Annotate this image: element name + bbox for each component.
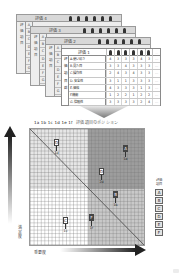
score-cell-more: … [152, 63, 160, 69]
person-icon [109, 16, 112, 21]
up-arrow-icon [4, 126, 16, 226]
person-icon [83, 28, 86, 33]
marker-letter: A [123, 145, 128, 152]
matrix-title: 1a 1b 1c 1d 1e 1f 評価項目のポジション [34, 119, 118, 125]
marker-letter: F [89, 214, 94, 221]
score-cell: 3 [114, 85, 122, 91]
score-cell: 2 [106, 70, 114, 76]
person-icon [132, 50, 135, 55]
score-cell: 1 [137, 85, 145, 91]
table-row: E.価格433313… [69, 85, 160, 92]
score-cell: 3 [121, 70, 129, 76]
score-cell: 4 [121, 63, 129, 69]
person-icon [117, 50, 120, 55]
column-header [145, 49, 153, 56]
sheet-header: 評価 3 [31, 27, 135, 34]
table-row: F.機能122122… [69, 92, 160, 99]
marker-code: 1d [54, 151, 58, 155]
x-axis-label: 重要度 [34, 249, 46, 255]
person-icon [124, 50, 127, 55]
sheet-side-label: 評価項目 [17, 22, 26, 73]
score-cell: 3 [129, 99, 137, 105]
score-cell: 3 [114, 99, 122, 105]
sheet-header: 評価 1 … [62, 49, 160, 56]
score-cell: 4 [129, 70, 137, 76]
person-icon [91, 28, 94, 33]
score-cell: 3 [114, 63, 122, 69]
sheet-title: 評価 2 [64, 38, 76, 45]
score-cell-more: … [152, 56, 160, 62]
down-arrow-icon [80, 106, 128, 118]
column-header [121, 49, 129, 56]
score-cell: 3 [137, 78, 145, 84]
person-icon [115, 28, 118, 33]
score-cell: 4 [106, 56, 114, 62]
position-marker: A1a [123, 145, 128, 161]
sheet-side-label: 評価項目群 [62, 56, 69, 105]
score-cell: 2 [137, 92, 145, 98]
score-cell: 3 [106, 63, 114, 69]
person-icon [114, 39, 117, 44]
y-axis-label: 満足度 [18, 226, 24, 240]
score-cell: 4 [114, 70, 122, 76]
row-label: C.操作性 [69, 70, 106, 76]
column-header [114, 49, 122, 56]
row-label: B.見た目 [69, 63, 106, 69]
person-icons [98, 39, 141, 44]
table-row: D.安全性311333… [69, 78, 160, 85]
score-cell: 3 [145, 56, 153, 62]
row-label: E.価格 [69, 85, 106, 91]
matrix-title-text: 評価項目のポジション [76, 120, 118, 125]
side-char: 目 [31, 52, 39, 58]
score-cell: 4 [137, 56, 145, 62]
score-cell-more: … [152, 70, 160, 76]
score-cell: 3 [137, 70, 145, 76]
page-marker [173, 269, 179, 273]
sheet-header: 評価 4 [17, 15, 121, 22]
right-arrow-icon [60, 244, 146, 256]
person-icon [130, 39, 133, 44]
position-marker: F1f [89, 214, 94, 230]
legend-item: F [155, 229, 163, 236]
position-marker: D2d [99, 168, 104, 184]
person-icon [109, 50, 112, 55]
side-char: 目 [62, 78, 68, 85]
score-cell: 4 [106, 85, 114, 91]
person-icon [123, 28, 126, 33]
person-icon [107, 28, 110, 33]
row-label: F.機能 [69, 92, 106, 98]
marker-letter: D [99, 168, 104, 175]
side-char: 価 [62, 63, 68, 70]
side-char: 目 [46, 63, 54, 69]
person-icon [99, 28, 102, 33]
legend-item: C [155, 205, 163, 212]
person-icon [69, 16, 72, 21]
legend-item: E [155, 221, 163, 228]
score-cell: 3 [145, 70, 153, 76]
row-label: A.使い易さ [69, 56, 106, 62]
sheet-body: 評価項目群 A.使い易さ433343…B.見た目334333…C.操作性2434… [62, 56, 160, 105]
evaluation-sheet-1: 評価 1 … 評価項目群 A.使い易さ433343…B.見た目334333…C.… [61, 48, 161, 106]
sheet-side-label: 評価項目 [31, 34, 40, 85]
score-cell: 3 [145, 78, 153, 84]
legend: 評価項目 ABCDEF [148, 178, 170, 237]
score-cell: 2 [121, 92, 129, 98]
side-char: 評 [62, 56, 68, 63]
legend-caption: 評価項目 [156, 178, 162, 186]
position-marker: D1d [54, 139, 59, 155]
column-header [137, 49, 145, 56]
score-cell: 3 [129, 63, 137, 69]
score-cell: 1 [114, 78, 122, 84]
priority-matrix: D1dA1aD2dB1bC1cF1f [29, 128, 145, 246]
person-icon [147, 50, 150, 55]
person-icon [101, 16, 104, 21]
score-cell: 2 [114, 92, 122, 98]
sheet-title: 評価 4 [35, 15, 47, 22]
score-cell: 4 [145, 99, 153, 105]
marker-code: 1c [64, 229, 68, 233]
column-header [106, 49, 114, 56]
score-cell: 3 [129, 85, 137, 91]
marker-letter: B [113, 191, 118, 198]
column-header [129, 49, 137, 56]
score-cell: 3 [114, 56, 122, 62]
